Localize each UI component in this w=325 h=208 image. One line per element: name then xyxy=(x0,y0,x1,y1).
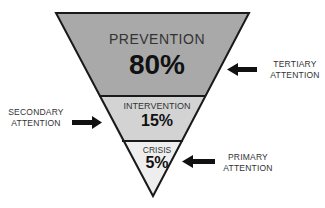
primary-attention-line1: PRIMARY xyxy=(218,152,278,163)
primary-attention-label: PRIMARY ATTENTION xyxy=(218,152,278,174)
tier-intervention-percent: 15% xyxy=(112,112,202,130)
secondary-attention-line2: ATTENTION xyxy=(4,118,68,129)
arrow-secondary-icon xyxy=(72,116,102,129)
tier-intervention-title: INTERVENTION xyxy=(112,101,202,111)
tertiary-attention-label: TERTIARY ATTENTION xyxy=(265,59,325,81)
tier-prevention-title: PREVENTION xyxy=(102,31,212,47)
tertiary-attention-line2: ATTENTION xyxy=(265,70,325,81)
primary-attention-line2: ATTENTION xyxy=(218,163,278,174)
tier-prevention-percent: 80% xyxy=(102,49,212,81)
arrow-tertiary-icon xyxy=(227,63,257,76)
secondary-attention-line1: SECONDARY xyxy=(4,107,68,118)
tier-crisis-percent: 5% xyxy=(127,154,187,172)
tertiary-attention-line1: TERTIARY xyxy=(265,59,325,70)
secondary-attention-label: SECONDARY ATTENTION xyxy=(4,107,68,129)
